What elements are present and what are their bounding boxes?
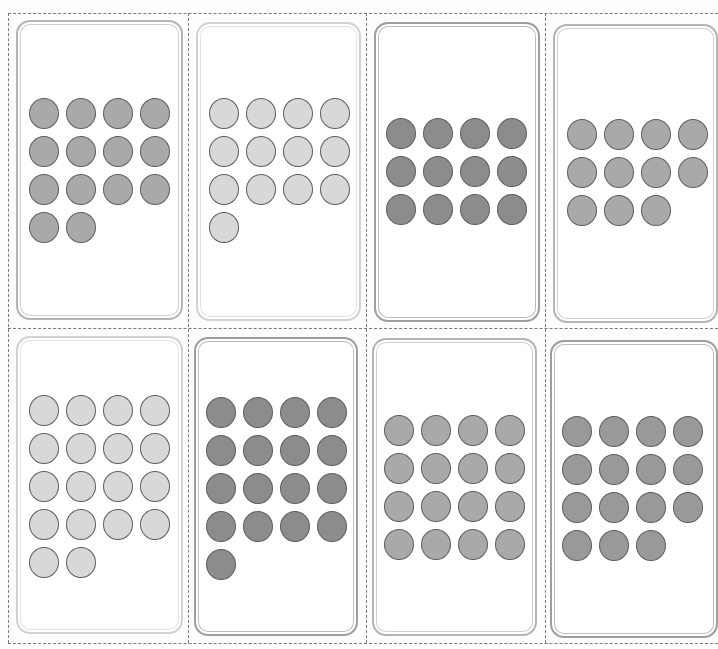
counting-dot-icon	[140, 395, 170, 426]
counting-dot-icon	[641, 119, 671, 150]
counting-dot-icon	[678, 157, 708, 188]
counting-dot-icon	[421, 415, 451, 446]
counting-dot-icon	[458, 415, 488, 446]
counting-dot-icon	[209, 174, 239, 205]
counting-dot-icon	[567, 119, 597, 150]
counting-dot-icon	[421, 491, 451, 522]
counting-dot-icon	[103, 433, 133, 464]
counting-dot-icon	[604, 119, 634, 150]
counting-dot-icon	[280, 473, 310, 504]
counting-dot-icon	[29, 471, 59, 502]
counting-dot-icon	[280, 435, 310, 466]
dot-card-5	[16, 336, 183, 634]
counting-dot-icon	[283, 136, 313, 167]
counting-dot-icon	[243, 473, 273, 504]
counting-dot-icon	[206, 549, 236, 580]
counting-dot-icon	[384, 491, 414, 522]
counting-dot-icon	[423, 156, 453, 187]
counting-dot-icon	[66, 212, 96, 243]
counting-dot-icon	[317, 435, 347, 466]
counting-dot-icon	[562, 492, 592, 523]
counting-dot-icon	[103, 395, 133, 426]
counting-dot-icon	[641, 195, 671, 226]
counting-dot-icon	[246, 98, 276, 129]
counting-dot-icon	[460, 156, 490, 187]
counting-dot-icon	[384, 415, 414, 446]
dot-card-7	[372, 338, 537, 636]
counting-dot-icon	[320, 174, 350, 205]
dot-group	[209, 98, 351, 243]
counting-dot-icon	[599, 416, 629, 447]
cut-line-middle	[8, 328, 718, 329]
counting-dot-icon	[497, 194, 527, 225]
counting-dot-icon	[140, 136, 170, 167]
counting-dot-icon	[386, 156, 416, 187]
counting-dot-icon	[423, 194, 453, 225]
counting-dot-icon	[29, 509, 59, 540]
dot-group	[567, 119, 709, 226]
counting-dot-icon	[317, 511, 347, 542]
counting-dot-icon	[458, 453, 488, 484]
counting-dot-icon	[320, 136, 350, 167]
counting-dot-icon	[103, 174, 133, 205]
counting-dot-icon	[562, 416, 592, 447]
counting-dot-icon	[29, 136, 59, 167]
counting-dot-icon	[29, 174, 59, 205]
counting-dot-icon	[206, 397, 236, 428]
dot-card-3	[374, 22, 540, 322]
counting-dot-icon	[140, 174, 170, 205]
counting-dot-icon	[209, 212, 239, 243]
dot-card-sheet	[0, 0, 718, 649]
dot-group	[29, 395, 171, 578]
counting-dot-icon	[243, 435, 273, 466]
counting-dot-icon	[495, 529, 525, 560]
dot-card-6	[194, 337, 358, 636]
counting-dot-icon	[317, 397, 347, 428]
counting-dot-icon	[421, 453, 451, 484]
counting-dot-icon	[636, 492, 666, 523]
counting-dot-icon	[206, 511, 236, 542]
counting-dot-icon	[460, 194, 490, 225]
counting-dot-icon	[384, 529, 414, 560]
counting-dot-icon	[678, 119, 708, 150]
counting-dot-icon	[103, 471, 133, 502]
cut-line-col-3-4	[545, 13, 546, 643]
cut-line-left	[8, 13, 9, 643]
counting-dot-icon	[246, 136, 276, 167]
dot-group	[29, 98, 171, 243]
counting-dot-icon	[386, 194, 416, 225]
counting-dot-icon	[636, 530, 666, 561]
cut-line-col-2-3	[366, 13, 367, 643]
counting-dot-icon	[384, 453, 414, 484]
counting-dot-icon	[673, 454, 703, 485]
counting-dot-icon	[599, 530, 629, 561]
counting-dot-icon	[246, 174, 276, 205]
counting-dot-icon	[206, 473, 236, 504]
counting-dot-icon	[103, 98, 133, 129]
counting-dot-icon	[103, 509, 133, 540]
counting-dot-icon	[280, 511, 310, 542]
cut-line-col-1-2	[188, 13, 189, 643]
counting-dot-icon	[140, 509, 170, 540]
counting-dot-icon	[599, 492, 629, 523]
counting-dot-icon	[209, 98, 239, 129]
counting-dot-icon	[243, 511, 273, 542]
dot-card-1	[16, 20, 183, 320]
counting-dot-icon	[206, 435, 236, 466]
counting-dot-icon	[423, 118, 453, 149]
counting-dot-icon	[317, 473, 347, 504]
counting-dot-icon	[29, 98, 59, 129]
counting-dot-icon	[604, 195, 634, 226]
counting-dot-icon	[280, 397, 310, 428]
counting-dot-icon	[599, 454, 629, 485]
counting-dot-icon	[497, 156, 527, 187]
counting-dot-icon	[66, 395, 96, 426]
counting-dot-icon	[66, 174, 96, 205]
counting-dot-icon	[386, 118, 416, 149]
counting-dot-icon	[567, 157, 597, 188]
counting-dot-icon	[458, 491, 488, 522]
counting-dot-icon	[497, 118, 527, 149]
counting-dot-icon	[458, 529, 488, 560]
counting-dot-icon	[562, 530, 592, 561]
dot-card-8	[550, 340, 718, 638]
